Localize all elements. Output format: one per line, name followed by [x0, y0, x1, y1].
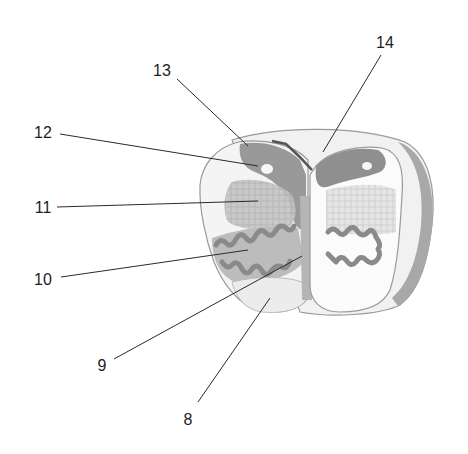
label-12: 12	[34, 125, 52, 141]
label-8: 8	[184, 412, 193, 428]
right-half	[310, 147, 402, 312]
nucleus-spot	[261, 164, 273, 174]
left-half	[200, 141, 312, 313]
label-11: 11	[35, 200, 52, 216]
label-13: 13	[153, 63, 171, 79]
label-14: 14	[376, 35, 394, 51]
leader-8	[198, 298, 270, 402]
leader-13	[177, 79, 248, 146]
right-nucleus-spot	[362, 162, 372, 170]
brainstem-diagram	[0, 0, 468, 454]
right-reticular-region	[326, 185, 396, 235]
label-10: 10	[34, 272, 52, 288]
pyramid	[232, 278, 306, 313]
label-9: 9	[98, 358, 107, 374]
